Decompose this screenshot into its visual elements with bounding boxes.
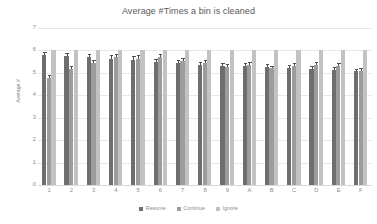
bar-resume-9 xyxy=(220,66,224,185)
gridline xyxy=(38,185,372,186)
bar-ignore-7 xyxy=(185,50,189,185)
legend-item-resume[interactable]: Resume xyxy=(139,206,166,211)
x-axis-tick-label: 5 xyxy=(127,188,149,194)
y-axis-tick-label: 2 xyxy=(14,137,36,143)
bar-resume-F xyxy=(354,71,358,185)
bar-continue-D xyxy=(314,65,318,185)
bar-group xyxy=(350,28,372,185)
bar-ignore-4 xyxy=(118,50,122,185)
x-axis-tick-label: 4 xyxy=(105,188,127,194)
error-bar-cap xyxy=(132,56,135,57)
error-bar xyxy=(312,67,313,69)
error-bar xyxy=(227,65,228,67)
bar-ignore-6 xyxy=(163,50,167,185)
legend-item-ignore[interactable]: Ignore xyxy=(216,206,238,211)
error-bar xyxy=(334,68,335,70)
error-bar-cap xyxy=(65,53,68,54)
bar-resume-2 xyxy=(64,56,68,185)
bar-ignore-3 xyxy=(96,50,100,185)
bar-ignore-C xyxy=(296,50,300,185)
bar-resume-C xyxy=(287,68,291,185)
bar-chart: Average #Times a bin is cleaned Average … xyxy=(0,0,377,224)
bars-layer xyxy=(38,28,372,185)
legend-item-continue[interactable]: Continue xyxy=(177,206,205,211)
error-bar xyxy=(200,63,201,65)
bar-resume-A xyxy=(243,66,247,185)
error-bar xyxy=(138,56,139,59)
bar-continue-8 xyxy=(203,63,207,185)
bar-group xyxy=(172,28,194,185)
bar-group xyxy=(60,28,82,185)
error-bar xyxy=(316,63,317,65)
bar-continue-1 xyxy=(47,78,51,185)
bar-group xyxy=(238,28,260,185)
bar-ignore-B xyxy=(274,50,278,185)
error-bar xyxy=(222,64,223,66)
error-bar xyxy=(156,60,157,62)
error-bar xyxy=(93,61,94,63)
error-bar xyxy=(178,61,179,63)
bar-group xyxy=(261,28,283,185)
error-bar xyxy=(294,64,295,66)
bar-resume-E xyxy=(332,70,336,185)
error-bar-cap xyxy=(355,69,358,70)
y-axis-tick-label: 0 xyxy=(14,182,36,188)
x-axis-tick-label: 9 xyxy=(216,188,238,194)
error-bar xyxy=(71,67,72,69)
x-axis-tick-label: E xyxy=(327,188,349,194)
x-axis-tick-label: C xyxy=(283,188,305,194)
legend-item-label: Resume xyxy=(146,206,166,211)
bar-group xyxy=(327,28,349,185)
bar-continue-E xyxy=(336,66,340,185)
x-axis-tick-label: F xyxy=(350,188,372,194)
error-bar xyxy=(44,53,45,55)
bar-ignore-A xyxy=(252,50,256,185)
bar-ignore-E xyxy=(341,50,345,185)
legend-swatch-icon xyxy=(177,207,181,211)
error-bar xyxy=(133,57,134,60)
bar-continue-2 xyxy=(69,69,73,185)
bar-group xyxy=(105,28,127,185)
bar-continue-C xyxy=(292,66,296,185)
bar-group xyxy=(283,28,305,185)
error-bar xyxy=(49,76,50,79)
x-axis-tick-label: 8 xyxy=(194,188,216,194)
plot-area xyxy=(38,28,372,185)
error-bar xyxy=(67,54,68,56)
error-bar xyxy=(160,55,161,57)
x-axis-tick-label: 1 xyxy=(38,188,60,194)
chart-legend: ResumeContinueIgnore xyxy=(0,206,377,211)
error-bar-cap xyxy=(43,52,46,53)
error-bar xyxy=(289,66,290,68)
error-bar-cap xyxy=(266,64,269,65)
bar-resume-B xyxy=(265,67,269,185)
bar-ignore-9 xyxy=(230,50,234,185)
bar-continue-F xyxy=(359,71,363,185)
bar-ignore-D xyxy=(319,50,323,185)
bar-continue-5 xyxy=(136,59,140,185)
bar-continue-A xyxy=(247,65,251,185)
x-axis-tick-label: B xyxy=(261,188,283,194)
error-bar-cap xyxy=(221,63,224,64)
bar-group xyxy=(194,28,216,185)
error-bar xyxy=(116,55,117,57)
x-axis-tick-label: A xyxy=(238,188,260,194)
bar-resume-D xyxy=(309,69,313,185)
error-bar xyxy=(245,64,246,66)
y-axis-tick-label: 5 xyxy=(14,70,36,76)
bar-continue-4 xyxy=(114,57,118,185)
error-bar xyxy=(205,61,206,63)
error-bar xyxy=(183,59,184,61)
bar-ignore-2 xyxy=(74,50,78,185)
error-bar xyxy=(356,70,357,72)
bar-resume-1 xyxy=(42,55,46,185)
y-axis-tick-label: 3 xyxy=(14,115,36,121)
y-axis-tick-label: 7 xyxy=(14,25,36,31)
x-axis-tick-label: 3 xyxy=(83,188,105,194)
bar-ignore-8 xyxy=(207,50,211,185)
bar-ignore-1 xyxy=(51,50,55,185)
error-bar-cap xyxy=(110,55,113,56)
x-axis-tick-label: 6 xyxy=(149,188,171,194)
bar-resume-8 xyxy=(198,65,202,185)
bar-group xyxy=(216,28,238,185)
